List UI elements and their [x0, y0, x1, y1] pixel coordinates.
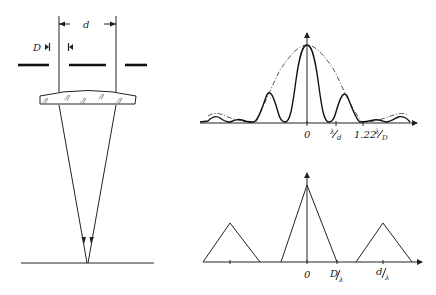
- tick-label-D-lambda: D λ: [329, 268, 343, 284]
- svg-text:λ: λ: [338, 276, 343, 284]
- svg-text:d: d: [376, 266, 382, 277]
- arrowhead-icon: [45, 44, 49, 50]
- svg-text:λ: λ: [384, 274, 389, 282]
- diagram-canvas: d D ⁄/ ⁄/ ⁄/ ⁄/ ⁄/: [0, 0, 436, 295]
- tick-label-0: 0: [304, 129, 311, 140]
- arrowhead-icon: [82, 237, 87, 244]
- tick-label-d-lambda: d λ: [376, 266, 389, 282]
- right-sideband-triangle: [356, 223, 412, 262]
- optical-setup: d D ⁄/ ⁄/ ⁄/ ⁄/ ⁄/: [18, 16, 154, 263]
- tick-label-0: 0: [304, 269, 311, 280]
- tick-label-122: 1.22: [354, 129, 376, 140]
- arrowhead-icon: [59, 22, 65, 27]
- glass-mark: ⁄/: [64, 94, 70, 102]
- label-D: D: [32, 42, 41, 53]
- svg-text:λ: λ: [374, 128, 379, 136]
- glass-mark: ⁄/: [98, 93, 104, 101]
- svg-text:D: D: [381, 134, 388, 142]
- label-d: d: [83, 19, 89, 30]
- tick-label-lambda-d: λ d: [329, 128, 342, 142]
- fringe-curve: [200, 45, 410, 122]
- envelope-curve: [208, 45, 408, 122]
- arrowhead-icon: [69, 44, 73, 50]
- svg-text:d: d: [337, 134, 342, 142]
- lens: [40, 91, 136, 105]
- arrowhead-icon: [110, 22, 116, 27]
- svg-text:λ: λ: [329, 128, 334, 136]
- intensity-plot: 0 λ d 1.22 λ D: [200, 33, 417, 142]
- transfer-function-plot: 0 D λ d λ: [203, 173, 422, 284]
- left-sideband-triangle: [203, 223, 260, 262]
- central-triangle: [281, 185, 337, 262]
